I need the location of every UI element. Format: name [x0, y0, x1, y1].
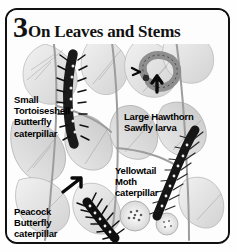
page-frame: 3 On Leaves and Stems Small Tortoiseshel…	[5, 8, 230, 244]
label-peacock-butterfly: Peacock Butterfly caterpillar	[14, 206, 57, 240]
section-header-inner: 3 On Leaves and Stems	[13, 12, 181, 42]
section-header: 3 On Leaves and Stems	[7, 12, 228, 44]
label-small-tortoiseshell: Small Tortoiseshell Butterfly caterpilla…	[14, 94, 70, 139]
page-title: On Leaves and Stems	[28, 23, 181, 40]
section-number: 3	[13, 12, 27, 42]
label-yellowtail-moth: Yellowtail Moth caterpillar	[115, 165, 158, 199]
field-guide-page: 3 On Leaves and Stems Small Tortoiseshel…	[0, 0, 237, 252]
label-large-hawthorn-sawfly: Large Hawthorn Sawfly larva	[124, 111, 194, 133]
